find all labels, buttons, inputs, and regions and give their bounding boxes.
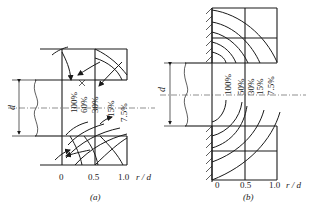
contour-label: 7.5% — [119, 103, 129, 122]
axis-label: r / d — [136, 172, 152, 182]
panel-b: d 100% 50% 30% 15% 7.5% 0 0.5 1.0 — [156, 8, 306, 202]
contour-label: 100% — [223, 74, 233, 96]
axis-b: 0 0.5 1.0 r / d — [215, 180, 302, 190]
contour-label: 15% — [255, 78, 265, 95]
contour-label: 30% — [90, 96, 100, 113]
panel-caption-b: (b) — [243, 192, 254, 202]
panel-caption-a: (a) — [90, 192, 101, 202]
contour-label: 7.5% — [266, 76, 276, 95]
axis-tick: 0.5 — [240, 180, 252, 190]
dimension-label: d — [6, 104, 17, 110]
axis-tick: 1.0 — [269, 180, 281, 190]
axis-label: r / d — [286, 180, 302, 190]
pipe-b — [184, 63, 212, 126]
contour-label: 100% — [69, 92, 79, 114]
axis-a: 0 0.5 1.0 r / d — [59, 172, 152, 182]
dimension-d-b: d — [156, 63, 186, 126]
contour-label: 50% — [236, 78, 246, 95]
contour-labels-b: 100% 50% 30% 15% 7.5% — [223, 74, 276, 96]
contour-labels-a: 100% 60% 30% 15% 7.5% — [69, 92, 129, 123]
axis-tick: 0 — [59, 172, 64, 182]
axis-tick: 0.5 — [88, 172, 100, 182]
contour-label: 60% — [79, 96, 89, 113]
panel-a: d 100% 60% 30% — [6, 47, 155, 202]
axis-tick: 0 — [215, 180, 220, 190]
axis-tick: 1.0 — [118, 172, 130, 182]
dimension-label: d — [156, 86, 167, 92]
diagram-figure: d 100% 60% 30% — [0, 0, 314, 213]
contour-label: 15% — [106, 100, 116, 117]
